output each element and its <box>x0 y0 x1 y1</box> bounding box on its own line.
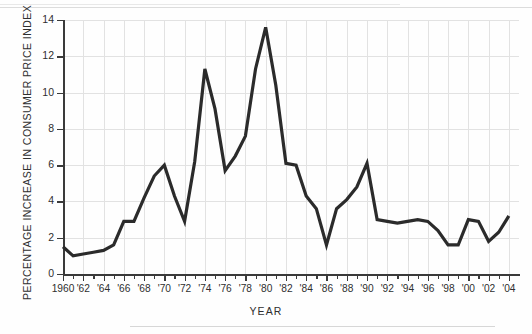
x-tick-label: '66 <box>117 283 130 294</box>
y-tick-label: 12 <box>14 49 54 61</box>
x-tick-mark-minor <box>478 274 479 279</box>
x-tick-label: '00 <box>462 283 475 294</box>
x-tick-mark-minor <box>114 274 115 279</box>
x-tick-mark-minor <box>377 274 378 279</box>
x-axis-line <box>63 274 520 276</box>
x-tick-mark-minor <box>256 274 257 279</box>
x-tick-mark-major <box>266 274 267 281</box>
x-tick-mark-minor <box>296 274 297 279</box>
cpi-polyline <box>63 27 509 256</box>
x-tick-label: '72 <box>178 283 191 294</box>
x-tick-mark-major <box>124 274 125 281</box>
x-tick-label: '88 <box>340 283 353 294</box>
x-tick-mark-major <box>387 274 388 281</box>
x-tick-mark-minor <box>174 274 175 279</box>
x-tick-mark-major <box>326 274 327 281</box>
x-tick-mark-major <box>164 274 165 281</box>
x-tick-label: '84 <box>300 283 313 294</box>
x-tick-label: '94 <box>401 283 414 294</box>
x-tick-label: '02 <box>482 283 495 294</box>
x-tick-mark-minor <box>195 274 196 279</box>
x-tick-mark-minor <box>215 274 216 279</box>
x-tick-label: '62 <box>77 283 90 294</box>
x-tick-label: '64 <box>97 283 110 294</box>
x-tick-label: '80 <box>259 283 272 294</box>
x-tick-mark-major <box>347 274 348 281</box>
x-tick-mark-major <box>286 274 287 281</box>
x-tick-mark-minor <box>316 274 317 279</box>
x-tick-mark-major <box>205 274 206 281</box>
x-tick-mark-major <box>408 274 409 281</box>
x-tick-mark-major <box>367 274 368 281</box>
x-tick-mark-major <box>185 274 186 281</box>
x-tick-mark-minor <box>438 274 439 279</box>
x-tick-mark-major <box>104 274 105 281</box>
x-tick-label: '78 <box>239 283 252 294</box>
x-tick-mark-minor <box>357 274 358 279</box>
y-tick-label: 0 <box>14 267 54 279</box>
cpi-line-series <box>63 20 519 274</box>
x-tick-label: 1960 <box>52 283 75 294</box>
x-tick-mark-major <box>306 274 307 281</box>
x-tick-label: '86 <box>320 283 333 294</box>
x-tick-mark-minor <box>73 274 74 279</box>
x-tick-mark-major <box>428 274 429 281</box>
y-tick-label: 8 <box>14 122 54 134</box>
y-tick-label: 6 <box>14 158 54 170</box>
x-tick-mark-minor <box>397 274 398 279</box>
y-tick-label: 2 <box>14 231 54 243</box>
y-tick-label: 14 <box>14 13 54 25</box>
chart-figure: PERCENTAGE INCREASE IN CONSUMER PRICE IN… <box>0 0 532 334</box>
scan-artifact-line-upper <box>0 4 400 5</box>
x-tick-mark-major <box>225 274 226 281</box>
x-tick-label: '70 <box>158 283 171 294</box>
x-tick-label: '98 <box>441 283 454 294</box>
x-tick-mark-minor <box>418 274 419 279</box>
x-tick-mark-major <box>489 274 490 281</box>
x-tick-mark-minor <box>276 274 277 279</box>
x-tick-mark-minor <box>337 274 338 279</box>
x-tick-mark-major <box>144 274 145 281</box>
x-tick-mark-minor <box>93 274 94 279</box>
x-tick-label: '04 <box>502 283 515 294</box>
x-tick-mark-minor <box>154 274 155 279</box>
x-tick-mark-minor <box>499 274 500 279</box>
x-tick-mark-minor <box>458 274 459 279</box>
x-tick-label: '68 <box>137 283 150 294</box>
x-tick-mark-major <box>63 274 64 281</box>
x-tick-mark-minor <box>134 274 135 279</box>
x-tick-mark-major <box>83 274 84 281</box>
y-tick-label: 10 <box>14 86 54 98</box>
x-tick-label: '96 <box>421 283 434 294</box>
x-tick-label: '82 <box>279 283 292 294</box>
x-tick-label: '92 <box>381 283 394 294</box>
scan-artifact-line <box>0 7 532 8</box>
x-tick-mark-major <box>448 274 449 281</box>
footer-rule <box>130 326 495 327</box>
x-tick-mark-major <box>468 274 469 281</box>
x-tick-mark-minor <box>235 274 236 279</box>
x-tick-label: '90 <box>360 283 373 294</box>
x-tick-label: '74 <box>198 283 211 294</box>
x-tick-label: '76 <box>218 283 231 294</box>
x-tick-mark-major <box>245 274 246 281</box>
y-tick-label: 4 <box>14 194 54 206</box>
x-tick-mark-major <box>509 274 510 281</box>
x-axis-title: YEAR <box>0 305 532 317</box>
